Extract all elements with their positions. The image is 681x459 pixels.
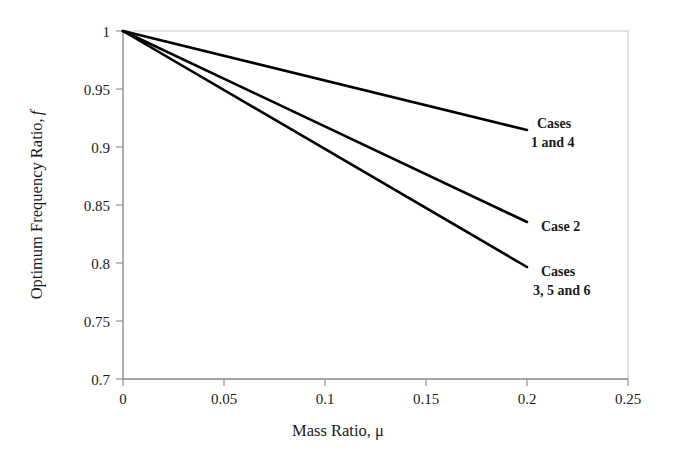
y-tick-label-095: 0.95: [84, 82, 110, 98]
x-axis-title-main: Mass Ratio,: [292, 421, 371, 440]
y-tick-label-085: 0.85: [84, 198, 110, 214]
y-tick-label-08: 0.8: [91, 256, 110, 272]
x-axis-title: Mass Ratio, μ: [292, 421, 384, 440]
x-tick-label-01: 0.1: [316, 391, 335, 407]
svg-text:Optimum Frequency Ratio,f: Optimum Frequency Ratio,f: [27, 108, 46, 299]
x-tick-label-02: 0.2: [518, 391, 537, 407]
optimum-frequency-ratio-chart: 1 0.95 0.9 0.85 0.8 0.75 0.7 0 0.05 0.1 …: [0, 0, 681, 459]
annotation-case-2-line1: Case 2: [541, 219, 580, 234]
annotation-cases-1-and-4-line1: Cases: [537, 116, 572, 131]
x-tick-label-0: 0: [119, 391, 127, 407]
y-tick-label-075: 0.75: [84, 314, 110, 330]
chart-figure: 1 0.95 0.9 0.85 0.8 0.75 0.7 0 0.05 0.1 …: [0, 0, 681, 459]
y-axis-title: Optimum Frequency Ratio,f: [27, 108, 46, 299]
svg-text:Mass Ratio, μ: Mass Ratio, μ: [292, 421, 384, 440]
annotation-cases-3-5-and-6-line2: 3, 5 and 6: [533, 283, 591, 298]
x-tick-label-005: 0.05: [211, 391, 237, 407]
x-axis-title-symbol: μ: [375, 421, 384, 440]
annotation-cases-3-5-and-6-line1: Cases: [541, 264, 576, 279]
y-tick-label-07: 0.7: [91, 372, 110, 388]
annotation-cases-1-and-4-line2: 1 and 4: [531, 135, 575, 150]
y-tick-label-1: 1: [103, 24, 111, 40]
x-tick-label-015: 0.15: [413, 391, 439, 407]
y-tick-label-09: 0.9: [91, 140, 110, 156]
y-axis-title-main: Optimum Frequency Ratio,: [27, 118, 46, 299]
x-tick-label-025: 0.25: [615, 391, 641, 407]
annotation-case-2: Case 2: [541, 219, 580, 234]
